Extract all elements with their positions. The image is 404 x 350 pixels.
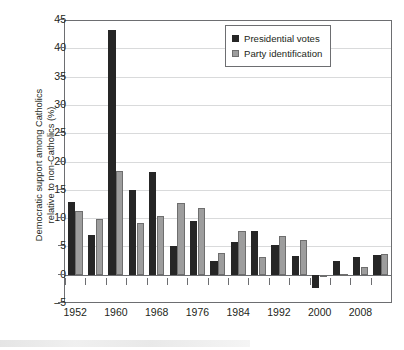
y-tick-mark [58, 132, 64, 133]
bar-1964-party-identification [137, 223, 144, 275]
bar-2012-presidential-votes [373, 255, 380, 274]
bar-1992-party-identification [279, 236, 286, 275]
x-tick-mark [350, 278, 351, 285]
bar-2008-presidential-votes [353, 257, 360, 275]
bar-1960-party-identification [116, 171, 123, 275]
y-tick-mark [58, 274, 64, 275]
x-tick-label-2000: 2000 [298, 306, 342, 318]
bar-1988-presidential-votes [251, 231, 258, 275]
bar-1964-presidential-votes [129, 190, 136, 274]
bar-1980-party-identification [218, 253, 225, 275]
legend-item-presidential-votes: Presidential votes [232, 31, 322, 46]
legend: Presidential votes Party identification [225, 25, 331, 67]
y-tick-mark [58, 104, 64, 105]
y-tick-mark [58, 161, 64, 162]
x-tick-mark [269, 278, 270, 285]
y-tick-mark [58, 189, 64, 190]
bar-2004-party-identification [340, 274, 347, 276]
bar-1976-party-identification [198, 208, 205, 275]
x-tick-mark [391, 278, 392, 285]
x-tick-mark [167, 278, 168, 285]
bar-2008-party-identification [361, 267, 368, 274]
bar-1980-presidential-votes [210, 261, 217, 275]
bar-1956-presidential-votes [88, 235, 95, 275]
y-tick-mark [58, 76, 64, 77]
x-tick-mark [126, 278, 127, 285]
bar-2012-party-identification [381, 254, 388, 274]
x-tick-mark [65, 278, 66, 285]
bar-1996-party-identification [300, 240, 307, 275]
bar-1976-presidential-votes [190, 221, 197, 274]
legend-swatch-icon-presidential-votes [232, 35, 239, 42]
bar-2004-presidential-votes [333, 261, 340, 275]
legend-item-party-identification: Party identification [232, 46, 322, 61]
bar-1972-party-identification [177, 203, 184, 275]
x-tick-mark [208, 278, 209, 285]
legend-label-presidential-votes: Presidential votes [244, 33, 320, 44]
x-tick-mark [147, 278, 148, 285]
y-axis-title: Democratic support among Catholics relat… [0, 0, 40, 310]
caption-smudge [0, 340, 250, 347]
bar-1992-presidential-votes [271, 245, 278, 274]
bar-2000-party-identification [320, 275, 327, 277]
bar-2000-presidential-votes [312, 275, 319, 288]
x-tick-mark [310, 278, 311, 285]
bar-1960-presidential-votes [108, 30, 115, 275]
x-tick-mark [106, 278, 107, 285]
x-tick-label-1992: 1992 [257, 306, 301, 318]
bar-1968-presidential-votes [149, 172, 156, 274]
x-tick-mark [330, 278, 331, 285]
bar-1972-presidential-votes [170, 246, 177, 275]
x-tick-label-1960: 1960 [94, 306, 138, 318]
y-tick-mark [58, 302, 64, 303]
y-tick-mark [58, 217, 64, 218]
x-tick-label-1952: 1952 [53, 306, 97, 318]
bar-chart-figure: Democratic support among Catholics relat… [0, 0, 404, 350]
bar-1952-presidential-votes [68, 202, 75, 275]
bar-1988-party-identification [259, 257, 266, 275]
y-tick-mark [58, 47, 64, 48]
x-tick-mark [248, 278, 249, 285]
x-tick-mark [85, 278, 86, 285]
bar-1956-party-identification [96, 219, 103, 274]
bar-1968-party-identification [157, 216, 164, 274]
y-tick-mark [58, 245, 64, 246]
x-tick-label-1976: 1976 [175, 306, 219, 318]
x-tick-label-1984: 1984 [216, 306, 260, 318]
x-tick-label-1968: 1968 [135, 306, 179, 318]
y-tick-mark [58, 19, 64, 20]
x-tick-label-2008: 2008 [338, 306, 382, 318]
bar-1984-party-identification [238, 231, 245, 275]
x-tick-mark [371, 278, 372, 285]
bar-1952-party-identification [75, 211, 82, 274]
x-tick-mark [187, 278, 188, 285]
legend-label-party-identification: Party identification [244, 48, 322, 59]
bar-1984-presidential-votes [231, 242, 238, 274]
legend-swatch-icon-party-identification [232, 50, 239, 57]
x-tick-mark [289, 278, 290, 285]
bar-1996-presidential-votes [292, 256, 299, 275]
x-tick-mark [228, 278, 229, 285]
